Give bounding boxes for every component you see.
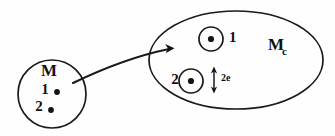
target-set-Mc: M c 1 2 2e	[149, 11, 323, 109]
target-element-1-label: 1	[229, 29, 237, 45]
figure-canvas: M 1 2 M c 1	[0, 0, 335, 136]
source-element-1-label: 1	[41, 81, 49, 97]
target-element-2-dot-icon	[188, 78, 194, 84]
target-element-2-label: 2	[171, 71, 179, 87]
target-element-1-dot-icon	[208, 36, 214, 42]
source-element-1: 1	[41, 81, 60, 97]
target-element-2: 2	[171, 69, 203, 93]
target-element-1: 1	[199, 27, 237, 51]
source-element-1-dot-icon	[54, 89, 60, 95]
target-set-boundary	[149, 11, 323, 109]
mapping-arrow	[73, 44, 175, 83]
target-set-label-group: M c	[268, 35, 287, 57]
target-set-label-subscript: c	[282, 45, 287, 57]
source-element-2-label: 2	[35, 98, 43, 114]
source-element-2: 2	[35, 98, 54, 114]
source-set-label: M	[41, 61, 57, 80]
measure-2e-label: 2e	[221, 72, 231, 83]
source-element-2-dot-icon	[48, 107, 54, 113]
source-set-M: M 1 2	[18, 60, 86, 128]
measure-2e: 2e	[211, 67, 231, 94]
